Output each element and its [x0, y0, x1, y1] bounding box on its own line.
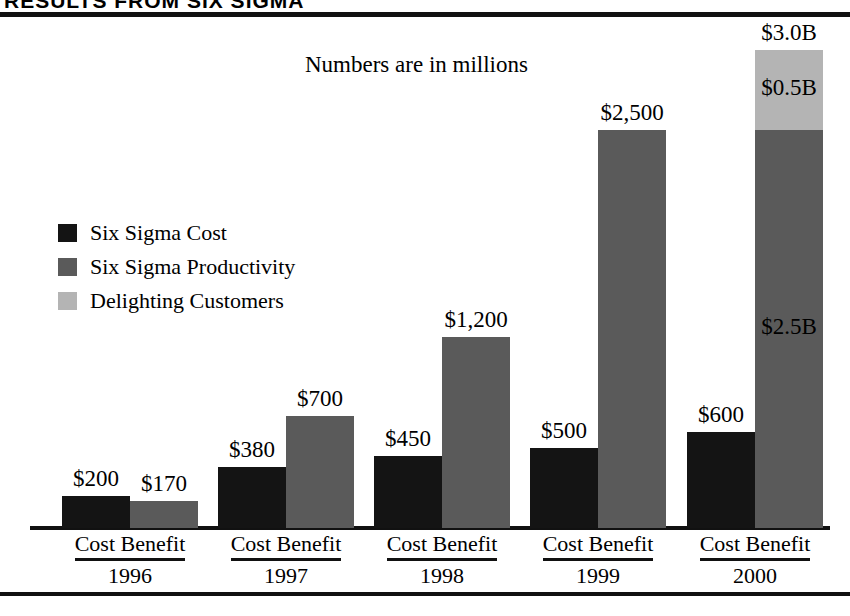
bar-value-label: $170: [141, 471, 187, 497]
x-axis-group-caption: Cost Benefit: [700, 532, 811, 561]
bottom-divider: [0, 592, 850, 596]
x-axis-year-label: 1998: [368, 561, 516, 589]
bar-value-label: $3.0B: [761, 20, 817, 46]
x-axis-group-caption: Cost Benefit: [75, 532, 186, 561]
x-axis-year-label: 1999: [524, 561, 672, 589]
bar-cost: [218, 467, 286, 528]
bar-cost: [62, 496, 130, 528]
bar-benefit-segment: [286, 416, 354, 528]
plot-area: $200$170$380$700$450$1,200$500$2,500$600…: [0, 0, 850, 530]
x-axis-group: Cost Benefit1997: [212, 532, 360, 589]
bar-value-label: $200: [73, 466, 119, 492]
bar-cost: [530, 448, 598, 528]
x-axis-group: Cost Benefit2000: [681, 532, 829, 589]
bar-value-label: $380: [229, 437, 275, 463]
bar-value-label: $700: [297, 386, 343, 412]
bar-cost: [374, 456, 442, 528]
x-axis-group: Cost Benefit1998: [368, 532, 516, 589]
bar-benefit-segment: [598, 130, 666, 528]
x-axis-group: Cost Benefit1996: [56, 532, 204, 589]
x-axis-year-label: 1997: [212, 561, 360, 589]
x-axis-group-caption: Cost Benefit: [231, 532, 342, 561]
bar-value-label: $600: [698, 402, 744, 428]
bar-value-label: $450: [385, 426, 431, 452]
x-axis-year-label: 1996: [56, 561, 204, 589]
bar-segment-value-label: $0.5B: [761, 75, 817, 101]
x-axis-year-label: 2000: [681, 561, 829, 589]
bar-benefit-segment: [442, 337, 510, 528]
x-axis-group: Cost Benefit1999: [524, 532, 672, 589]
bar-segment-value-label: $2.5B: [761, 314, 817, 340]
bar-cost: [687, 432, 755, 528]
bar-value-label: $1,200: [444, 307, 507, 333]
chart-figure: RESULTS FROM SIX SIGMA Numbers are in mi…: [0, 0, 850, 616]
x-axis-group-caption: Cost Benefit: [387, 532, 498, 561]
bar-value-label: $2,500: [600, 100, 663, 126]
x-axis-group-caption: Cost Benefit: [543, 532, 654, 561]
bar-benefit-segment: [130, 501, 198, 528]
bar-value-label: $500: [541, 418, 587, 444]
